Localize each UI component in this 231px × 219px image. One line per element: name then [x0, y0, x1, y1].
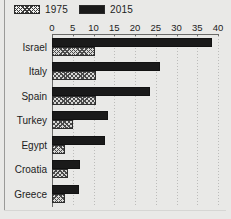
bar-group-israel: [52, 38, 218, 58]
bar-egypt-2015: [52, 136, 105, 145]
bar-turkey-2015: [52, 111, 108, 120]
figure-frame-bottom: [4, 210, 226, 211]
chart-legend: 1975 2015: [14, 3, 133, 16]
gridline-40: [218, 36, 219, 207]
bar-group-spain: [52, 87, 218, 107]
bar-group-croatia: [52, 160, 218, 180]
category-label-croatia: Croatia: [15, 164, 47, 175]
category-label-israel: Israel: [23, 42, 47, 53]
category-label-italy: Italy: [29, 66, 47, 77]
bar-greece-2015: [52, 185, 79, 194]
solid-swatch-icon: [79, 5, 105, 14]
bar-croatia-2015: [52, 160, 80, 169]
x-tick-label-25: 25: [150, 22, 161, 33]
x-tick-label-15: 15: [109, 22, 120, 33]
bar-israel-2015: [52, 38, 212, 47]
bar-group-italy: [52, 62, 218, 82]
x-tick-label-35: 35: [192, 22, 203, 33]
bar-turkey-1975: [52, 120, 73, 129]
bar-egypt-1975: [52, 145, 65, 154]
bar-group-turkey: [52, 111, 218, 131]
x-tick-label-5: 5: [70, 22, 75, 33]
x-tick-label-30: 30: [171, 22, 182, 33]
x-tick-label-20: 20: [130, 22, 141, 33]
bar-greece-1975: [52, 194, 65, 203]
legend-label-1975: 1975: [45, 5, 68, 15]
bar-group-greece: [52, 185, 218, 205]
bar-spain-2015: [52, 87, 150, 96]
x-tick-label-10: 10: [88, 22, 99, 33]
bar-italy-1975: [52, 71, 96, 80]
x-tick-label-0: 0: [49, 22, 54, 33]
x-tick-label-40: 40: [213, 22, 224, 33]
bar-chart-figure: 1975 2015 0510152025303540 IsraelItalySp…: [0, 0, 231, 219]
bar-croatia-1975: [52, 169, 68, 178]
bar-israel-1975: [52, 47, 95, 56]
y-axis-category-labels: IsraelItalySpainTurkeyEgyptCroatiaGreece: [0, 36, 50, 207]
bar-italy-2015: [52, 62, 160, 71]
plot-area: [52, 36, 218, 207]
category-label-greece: Greece: [14, 189, 47, 200]
category-label-turkey: Turkey: [17, 115, 47, 126]
category-label-egypt: Egypt: [21, 140, 47, 151]
legend-item-1975: 1975: [14, 5, 68, 15]
category-label-spain: Spain: [21, 91, 47, 102]
legend-item-2015: 2015: [79, 5, 133, 15]
legend-label-2015: 2015: [110, 5, 133, 15]
x-axis-tick-labels: 0510152025303540: [0, 22, 231, 34]
hatched-swatch-icon: [14, 5, 40, 14]
bar-spain-1975: [52, 96, 96, 105]
bar-group-egypt: [52, 136, 218, 156]
